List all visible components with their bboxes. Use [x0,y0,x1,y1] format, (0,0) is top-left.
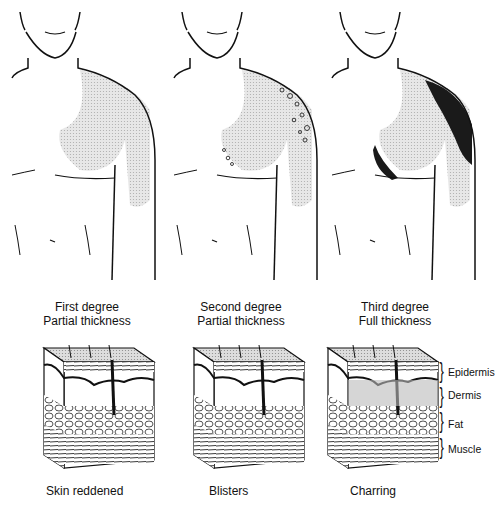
brace-fat-icon: } [439,410,443,432]
torso-second-degree-icon [162,0,327,280]
effect-third-degree: Charring [350,484,396,498]
skin-cross-section-third-icon [318,340,448,470]
effect-first-degree: Skin reddened [46,484,123,498]
torso-first-degree-icon [0,0,165,280]
caption-third-degree: Third degree Full thickness [320,300,470,328]
brace-dermis-icon: } [439,385,443,407]
brace-epidermis-icon: } [439,360,443,382]
thickness-label: Partial thickness [166,314,316,328]
effect-second-degree: Blisters [209,484,248,498]
caption-first-degree: First degree Partial thickness [12,300,162,328]
brace-muscle-icon: } [439,436,443,458]
degree-label: First degree [12,300,162,314]
layer-label-muscle: Muscle [448,443,481,455]
thickness-label: Full thickness [320,314,470,328]
caption-second-degree: Second degree Partial thickness [166,300,316,328]
layer-label-dermis: Dermis [448,389,481,401]
skin-cross-section-first-icon [34,340,164,470]
skin-cross-section-second-icon [184,340,314,470]
thickness-label: Partial thickness [12,314,162,328]
layer-label-epidermis: Epidermis [448,366,495,378]
degree-label: Third degree [320,300,470,314]
torso-third-degree-icon [320,0,485,280]
layer-label-fat: Fat [448,418,463,430]
degree-label: Second degree [166,300,316,314]
